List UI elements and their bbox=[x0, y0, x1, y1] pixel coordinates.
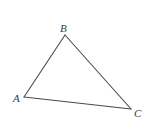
edge-ca bbox=[24, 97, 131, 109]
vertex-label-c: C bbox=[134, 107, 142, 119]
vertex-label-a: A bbox=[12, 92, 20, 104]
edge-bc bbox=[65, 35, 131, 109]
vertex-label-b: B bbox=[60, 22, 67, 34]
triangle-diagram: A B C bbox=[0, 0, 156, 128]
edge-ab bbox=[24, 35, 65, 97]
